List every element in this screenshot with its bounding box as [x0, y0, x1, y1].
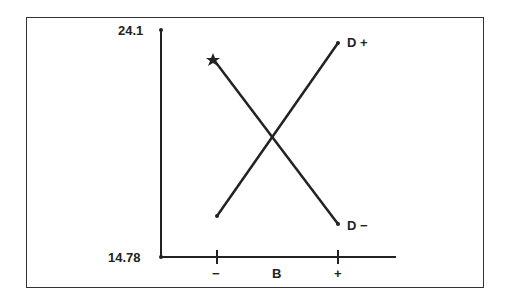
y-min-label: 14.78: [108, 250, 141, 265]
series-d-minus-line: [214, 60, 338, 224]
x-tick-plus-label: +: [334, 266, 342, 281]
x-axis-label: B: [272, 266, 281, 281]
series-d-minus-label: D −: [347, 218, 368, 233]
x-tick-minus-label: −: [212, 266, 220, 281]
series-d-plus-line: [217, 43, 338, 216]
chart-plot: [0, 0, 508, 305]
series-d-plus-label: D +: [347, 35, 368, 50]
y-max-label: 24.1: [118, 23, 143, 38]
